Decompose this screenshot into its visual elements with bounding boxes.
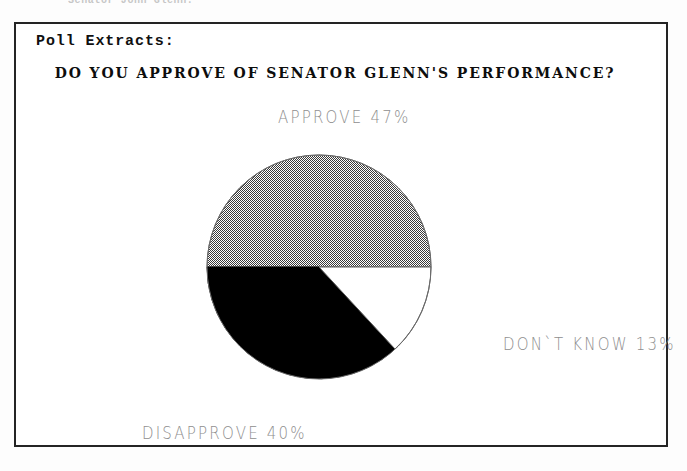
pie-slice-dont-know <box>319 267 431 349</box>
scan-header-text: Senator John Glenn: <box>68 0 193 6</box>
section-label: Poll Extracts: <box>36 33 175 50</box>
pie-label-disapprove: DISAPPROVE 40% <box>142 423 307 443</box>
chart-title: DO YOU APPROVE OF SENATOR GLENN'S PERFOR… <box>10 65 660 81</box>
pie-slice-approve <box>207 155 431 267</box>
pie-label-approve: APPROVE 47% <box>278 107 410 127</box>
pie-chart-svg <box>16 24 670 449</box>
scanned-page: Senator John Glenn: Poll Extracts: DO YO… <box>0 0 687 471</box>
pie-label-dont-know: DON`T KNOW 13% <box>503 334 676 354</box>
pie-slice-disapprove <box>207 267 395 379</box>
pie-chart <box>16 24 670 449</box>
poll-extracts-frame: Poll Extracts: DO YOU APPROVE OF SENATOR… <box>14 22 668 447</box>
pie-outline <box>207 155 431 379</box>
